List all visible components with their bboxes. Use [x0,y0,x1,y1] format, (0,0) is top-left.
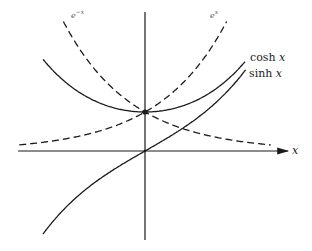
sinh-label: sinh x [249,67,282,80]
exp-neg-x-curve [63,22,270,145]
cosh-label: cosh x [250,51,285,64]
hyperbolic-functions-diagram: e−x ex cosh x sinh x x [0,0,312,251]
exp-x-curve [19,22,226,145]
origin-point [144,150,146,152]
exp-neg-x-label: e−x [71,8,84,20]
intersection-point [142,109,147,114]
exp-x-label: ex [210,8,218,20]
x-axis-label: x [292,144,298,157]
plot-area [0,0,312,251]
